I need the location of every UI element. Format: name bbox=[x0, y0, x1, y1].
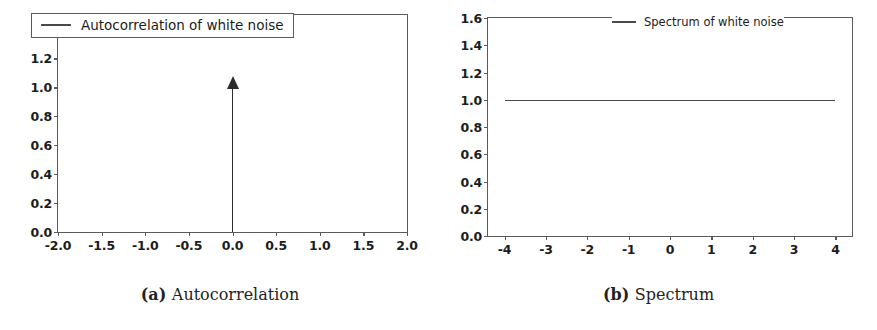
y-tick-label: 0.8 bbox=[460, 120, 482, 135]
x-tick bbox=[794, 236, 795, 240]
y-tick-label: 1.2 bbox=[460, 65, 482, 80]
y-tick bbox=[484, 45, 488, 46]
x-tick-label: 1.0 bbox=[309, 238, 331, 253]
subfigure-spectrum: 0.0 0.2 0.4 0.6 0.8 1.0 1.2 1.4 1.6 -4 -… bbox=[440, 0, 877, 330]
y-tick bbox=[54, 87, 58, 88]
x-tick-label: -1.0 bbox=[132, 238, 159, 253]
x-tick bbox=[58, 232, 59, 236]
y-tick bbox=[484, 154, 488, 155]
x-tick bbox=[145, 232, 146, 236]
subfigure-caption-b: (b)Spectrum bbox=[440, 285, 877, 304]
subfigure-autocorrelation: 0.0 0.2 0.4 0.6 0.8 1.0 1.2 1.4 -2.0 -1.… bbox=[0, 0, 440, 330]
y-tick bbox=[54, 145, 58, 146]
x-tick bbox=[320, 232, 321, 236]
x-tick-label: -1 bbox=[622, 242, 636, 257]
x-tick-label: 0 bbox=[666, 242, 675, 257]
x-tick-label: -1.5 bbox=[88, 238, 115, 253]
y-tick-label: 1.6 bbox=[460, 11, 482, 26]
y-tick bbox=[54, 203, 58, 204]
y-tick-label: 0.4 bbox=[460, 174, 482, 189]
x-tick bbox=[363, 232, 364, 236]
x-tick-label: -2 bbox=[581, 242, 595, 257]
spectrum-line bbox=[505, 100, 836, 102]
y-tick-label: 0.8 bbox=[30, 109, 52, 124]
caption-text: Spectrum bbox=[635, 285, 714, 304]
legend-line-swatch bbox=[41, 24, 71, 25]
y-tick bbox=[484, 209, 488, 210]
x-tick bbox=[407, 232, 408, 236]
x-tick-label: 1 bbox=[707, 242, 716, 257]
figure-two-panel: 0.0 0.2 0.4 0.6 0.8 1.0 1.2 1.4 -2.0 -1.… bbox=[0, 0, 877, 330]
caption-tag: (b) bbox=[603, 285, 635, 304]
y-tick-label: 0.6 bbox=[30, 138, 52, 153]
x-tick bbox=[835, 236, 836, 240]
impulse-arrowhead-icon bbox=[227, 76, 239, 89]
x-tick-label: 3 bbox=[790, 242, 799, 257]
y-tick bbox=[484, 100, 488, 101]
y-tick-label: 0.6 bbox=[460, 147, 482, 162]
x-tick-label: -3 bbox=[539, 242, 553, 257]
legend-label: Autocorrelation of white noise bbox=[81, 17, 284, 33]
y-tick-label: 1.0 bbox=[460, 92, 482, 107]
y-tick bbox=[484, 182, 488, 183]
subfigure-caption-a: (a)Autocorrelation bbox=[0, 285, 440, 304]
y-tick-label: 0.2 bbox=[460, 201, 482, 216]
x-tick bbox=[753, 236, 754, 240]
x-tick bbox=[276, 232, 277, 236]
x-tick bbox=[711, 236, 712, 240]
x-tick bbox=[233, 232, 234, 236]
x-tick bbox=[546, 236, 547, 240]
x-tick-label: 0.0 bbox=[222, 238, 244, 253]
x-tick bbox=[587, 236, 588, 240]
y-tick-label: 1.2 bbox=[30, 51, 52, 66]
x-tick bbox=[102, 232, 103, 236]
x-tick bbox=[505, 236, 506, 240]
x-tick bbox=[670, 236, 671, 240]
y-tick bbox=[54, 116, 58, 117]
legend-autocorrelation: Autocorrelation of white noise bbox=[31, 13, 294, 38]
y-tick bbox=[484, 236, 488, 237]
x-tick-label: 2.0 bbox=[396, 238, 418, 253]
y-tick bbox=[54, 58, 58, 59]
y-tick bbox=[484, 18, 488, 19]
legend-spectrum: Spectrum of white noise bbox=[612, 15, 784, 29]
x-tick bbox=[189, 232, 190, 236]
legend-label: Spectrum of white noise bbox=[644, 15, 784, 29]
x-tick-label: 2 bbox=[748, 242, 757, 257]
x-tick-label: 0.5 bbox=[265, 238, 287, 253]
y-tick bbox=[54, 174, 58, 175]
x-tick-label: 1.5 bbox=[353, 238, 375, 253]
y-tick-label: 0.2 bbox=[30, 196, 52, 211]
caption-tag: (a) bbox=[141, 285, 172, 304]
y-tick bbox=[484, 73, 488, 74]
x-tick-label: -4 bbox=[498, 242, 512, 257]
y-tick-label: 1.4 bbox=[460, 38, 482, 53]
x-tick bbox=[629, 236, 630, 240]
plot-axes-autocorrelation: 0.0 0.2 0.4 0.6 0.8 1.0 1.2 1.4 -2.0 -1.… bbox=[57, 14, 408, 233]
plot-axes-spectrum: 0.0 0.2 0.4 0.6 0.8 1.0 1.2 1.4 1.6 -4 -… bbox=[487, 17, 853, 237]
x-tick-label: -0.5 bbox=[176, 238, 203, 253]
y-tick bbox=[484, 127, 488, 128]
y-tick-label: 0.0 bbox=[460, 229, 482, 244]
y-tick-label: 1.0 bbox=[30, 80, 52, 95]
legend-line-swatch bbox=[612, 21, 636, 22]
impulse-shaft bbox=[232, 87, 233, 232]
x-tick-label: 4 bbox=[831, 242, 840, 257]
x-tick-label: -2.0 bbox=[45, 238, 72, 253]
y-tick-label: 0.4 bbox=[30, 167, 52, 182]
caption-text: Autocorrelation bbox=[172, 285, 299, 304]
